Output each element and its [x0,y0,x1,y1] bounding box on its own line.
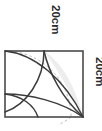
geometry-figure-container: 20cm 20cm [0,0,102,131]
right-side-dimension-label: 20cm [94,57,102,86]
top-side-dimension-label: 20cm [50,5,62,34]
quarter-arc-from-top-to-left [5,51,44,112]
dashed-construction-arc-tail [60,117,71,124]
geometry-diagram-svg: 20cm 20cm [0,0,102,131]
